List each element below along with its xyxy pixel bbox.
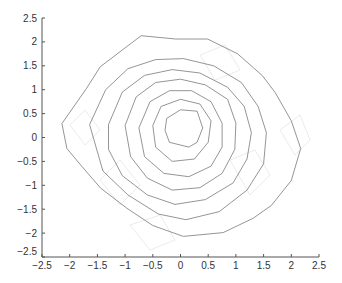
contour-level-2 <box>90 59 267 220</box>
y-tick-label: −1.5 <box>17 204 37 215</box>
x-tick-label: 1.5 <box>257 260 271 271</box>
y-ticks: −2.5−2−1.5−1−0.500.511.522.5 <box>17 13 45 258</box>
y-tick-label: −2.5 <box>17 246 37 257</box>
y-tick-label: −0.5 <box>17 156 37 167</box>
x-tick-label: 2.5 <box>312 260 326 271</box>
y-tick-label: −1 <box>26 180 38 191</box>
x-tick-label: 2 <box>289 260 295 271</box>
contour-lines <box>62 36 301 237</box>
x-tick-label: −1 <box>119 260 131 271</box>
contour-level-7 <box>165 110 203 147</box>
contour-level-1 <box>62 36 301 237</box>
x-tick-label: −0.5 <box>143 260 163 271</box>
contour-level-6 <box>153 99 211 161</box>
contour-level-4 <box>125 79 236 190</box>
y-tick-label: 1.5 <box>23 60 37 71</box>
x-tick-label: −1.5 <box>88 260 108 271</box>
x-tick-label: −2 <box>64 260 76 271</box>
y-tick-label: 2.5 <box>23 13 37 24</box>
x-tick-label: 1 <box>233 260 239 271</box>
y-tick-label: 0.5 <box>23 108 37 119</box>
y-tick-label: 2 <box>31 36 37 47</box>
y-tick-label: 0 <box>31 132 37 143</box>
contour-level-3 <box>109 70 252 205</box>
contour-plot: −2.5−2−1.5−1−0.500.511.522.5 −2.5−2−1.5−… <box>0 0 342 283</box>
y-tick-label: 1 <box>31 84 37 95</box>
x-tick-label: 0 <box>178 260 184 271</box>
x-tick-label: 0.5 <box>201 260 215 271</box>
faint-background-contours <box>70 45 310 250</box>
y-tick-label: −2 <box>26 228 38 239</box>
x-tick-label: −2.5 <box>32 260 52 271</box>
